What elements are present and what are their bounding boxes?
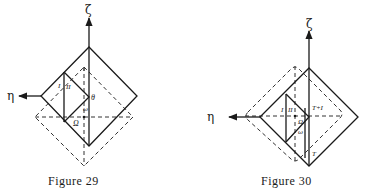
origin-dot	[294, 115, 297, 118]
zeta-label: ζ	[306, 17, 313, 31]
origin-dot	[83, 116, 86, 119]
figure-30: ζ η I II T+I Ω ω T	[207, 17, 358, 166]
label-T-plus-I: T+I	[312, 104, 324, 112]
label-omega: ω	[83, 105, 88, 113]
label-I: I	[57, 82, 61, 90]
caption-figure-29: Figure 29	[48, 174, 99, 189]
caption-figure-30: Figure 30	[261, 174, 312, 189]
eta-label: η	[7, 89, 14, 103]
label-Omega: Ω	[298, 118, 303, 126]
zeta-label: ζ	[85, 3, 92, 17]
diagram-canvas: ζ η I II θ ω Ω ζ η I II T+I Ω ω T	[0, 0, 365, 192]
eta-label: η	[207, 110, 214, 124]
inner-diamond	[64, 72, 89, 122]
label-II: II	[65, 83, 71, 91]
label-I: I	[280, 106, 284, 114]
label-theta: θ	[91, 93, 95, 102]
label-T: T	[312, 150, 317, 158]
figure-29: ζ η I II θ ω Ω	[7, 3, 137, 166]
label-omega: ω	[298, 128, 303, 136]
label-II: II	[287, 106, 293, 114]
label-Omega: Ω	[73, 119, 79, 128]
